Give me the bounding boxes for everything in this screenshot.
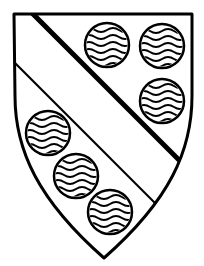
roundel-base-6 — [86, 190, 134, 234]
roundel-chief-2 — [138, 24, 186, 68]
roundel-base-4 — [24, 111, 72, 155]
shield-drawing — [0, 0, 204, 266]
shield-illustration-canvas — [0, 0, 204, 266]
roundel-chief-1 — [83, 23, 131, 67]
roundel-base-5 — [52, 154, 100, 198]
roundel-flank-3 — [138, 79, 186, 123]
